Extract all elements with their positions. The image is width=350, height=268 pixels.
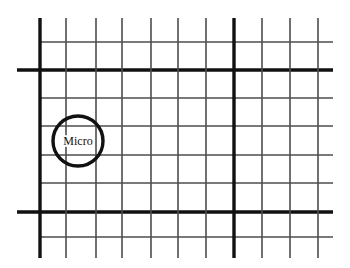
- mesh-grid-figure: MicroMicro: [0, 0, 350, 268]
- micro-label: Micro: [63, 134, 92, 148]
- mesh-grid-canvas: MicroMicro: [0, 0, 350, 268]
